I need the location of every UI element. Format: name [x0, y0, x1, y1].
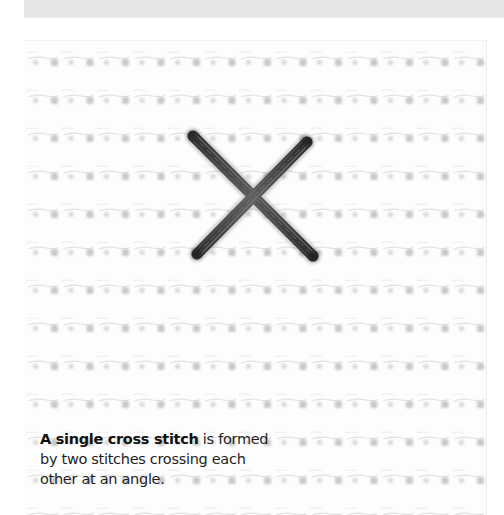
top-gray-band [24, 0, 504, 18]
fabric-illustration: A single cross stitch is formed by two s… [24, 40, 487, 515]
caption-text: A single cross stitch is formed by two s… [40, 429, 270, 489]
caption-bold-term: A single cross stitch [40, 431, 199, 447]
